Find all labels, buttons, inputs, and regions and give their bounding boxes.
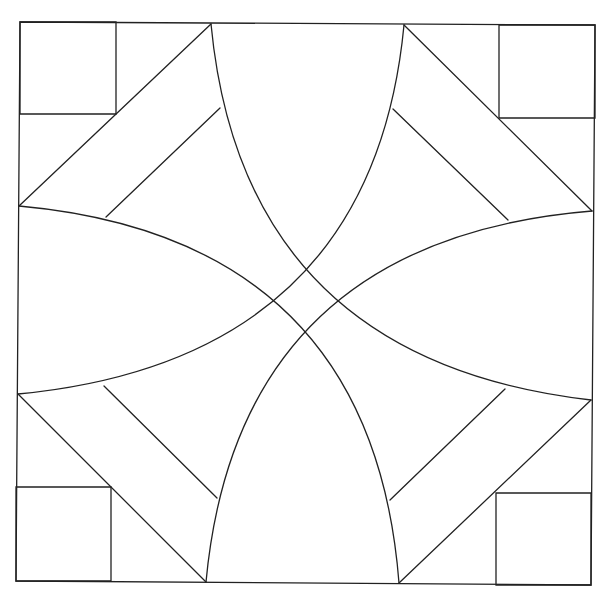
quilt-diagram (0, 0, 604, 601)
corner-square (20, 22, 116, 114)
diagonal-line (18, 394, 206, 582)
curved-arc (18, 25, 404, 394)
curved-arc (19, 206, 399, 583)
outer-border (16, 22, 595, 585)
curved-arc (211, 24, 591, 400)
curved-arc (206, 211, 592, 582)
corner-squares (16, 22, 595, 585)
corner-square (16, 487, 111, 581)
curved-arcs (18, 24, 592, 583)
inner-line (390, 389, 505, 500)
inner-line (393, 109, 508, 220)
diagonal-line (19, 24, 211, 206)
diagonal-line (399, 400, 591, 583)
corner-square (496, 493, 591, 585)
corner-square (499, 25, 595, 118)
inner-strip-lines (104, 108, 508, 500)
diagonal-lines (18, 24, 592, 583)
inner-line (106, 108, 220, 217)
border-outline (16, 22, 595, 585)
inner-line (104, 386, 217, 498)
